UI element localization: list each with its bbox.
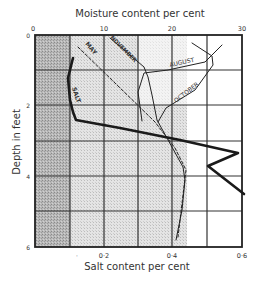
bottom-tick: 0·4 <box>167 252 177 260</box>
top-tick: 30 <box>238 25 246 33</box>
left-axis-title: Depth in feet <box>11 109 22 175</box>
bottom-tick: 0·6 <box>237 252 247 260</box>
chart-figure: Moisture content per cent 0 10 20 30 0 2… <box>0 0 259 281</box>
bottom-tick: · <box>76 252 78 259</box>
left-axis-ticks: 0 2 4 6 <box>26 32 30 251</box>
top-tick: 10 <box>100 25 108 33</box>
bottom-axis-ticks: · 0·2 0·4 0·6 <box>76 252 247 260</box>
left-tick: 0 <box>26 32 30 39</box>
top-tick: 0 <box>31 25 35 33</box>
top-tick: 20 <box>168 25 176 33</box>
left-tick: 6 <box>26 244 30 251</box>
bottom-tick: 0·2 <box>99 252 109 260</box>
bottom-axis-title: Salt content per cent <box>84 261 190 272</box>
top-axis-ticks: 0 10 20 30 <box>31 25 246 33</box>
left-tick: 4 <box>26 173 30 180</box>
left-tick: 2 <box>26 102 30 109</box>
top-axis-title: Moisture content per cent <box>75 8 204 19</box>
